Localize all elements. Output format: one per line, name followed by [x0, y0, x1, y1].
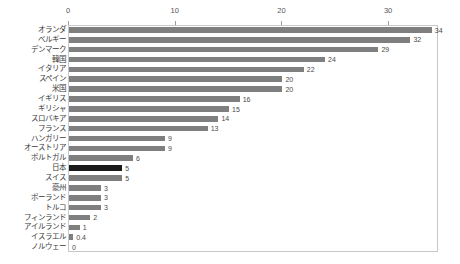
bar-row: イギリス16 — [0, 94, 460, 104]
bar-row: フランス13 — [0, 124, 460, 134]
bar — [69, 96, 240, 102]
bar — [69, 67, 304, 73]
bar-row: 米国20 — [0, 84, 460, 94]
bar — [69, 195, 101, 201]
bar-row: イタリア22 — [0, 64, 460, 74]
bar-chart: 0102030 オランダ34ベルギー32デンマーク29韓国24イタリア22スペイ… — [0, 0, 460, 264]
bar — [69, 234, 73, 240]
bar-row: ギリシャ15 — [0, 104, 460, 114]
category-label: スロバキア — [0, 114, 66, 124]
bar — [69, 57, 325, 63]
category-label: ハンガリー — [0, 134, 66, 144]
category-label: ポルトガル — [0, 153, 66, 163]
bar — [69, 146, 165, 152]
category-label: 日本 — [0, 163, 66, 173]
category-label: 米国 — [0, 84, 66, 94]
bar — [69, 86, 282, 92]
bar-row: オランダ34 — [0, 25, 460, 35]
bar-rows: オランダ34ベルギー32デンマーク29韓国24イタリア22スペイン20米国20イ… — [0, 25, 460, 252]
category-label: 豪州 — [0, 183, 66, 193]
bar-row: 韓国24 — [0, 55, 460, 65]
bar — [69, 106, 229, 112]
bar — [69, 155, 133, 161]
bar-row: アイルランド1 — [0, 222, 460, 232]
bar — [69, 205, 101, 211]
x-tick-label: 20 — [277, 6, 285, 15]
bar-row: フィンランド2 — [0, 213, 460, 223]
bar — [69, 185, 101, 191]
x-axis: 0102030 — [0, 0, 460, 26]
bar — [69, 165, 122, 171]
x-tick-label: 0 — [66, 6, 70, 15]
bar-row: ベルギー32 — [0, 35, 460, 45]
category-label: イタリア — [0, 64, 66, 74]
bar — [69, 47, 378, 53]
category-label: ノルウェー — [0, 242, 66, 252]
bar — [69, 225, 80, 231]
bar-row: 豪州3 — [0, 183, 460, 193]
category-label: フランス — [0, 124, 66, 134]
category-label: スペイン — [0, 74, 66, 84]
bar-row: ポーランド3 — [0, 193, 460, 203]
bar-value-label: 0 — [72, 243, 76, 253]
bar — [69, 175, 122, 181]
bar — [69, 76, 282, 82]
category-label: オランダ — [0, 25, 66, 35]
category-label: フィンランド — [0, 213, 66, 223]
category-label: イスラエル — [0, 232, 66, 242]
bar-row: スペイン20 — [0, 74, 460, 84]
bar-row: ノルウェー0 — [0, 242, 460, 252]
category-label: ポーランド — [0, 193, 66, 203]
bar — [69, 27, 432, 33]
category-label: アイルランド — [0, 222, 66, 232]
category-label: トルコ — [0, 203, 66, 213]
x-tick-label: 10 — [171, 6, 179, 15]
category-label: ギリシャ — [0, 104, 66, 114]
bar-row: オーストリア9 — [0, 143, 460, 153]
category-label: オーストリア — [0, 143, 66, 153]
bar — [69, 116, 218, 122]
bar-row: デンマーク29 — [0, 45, 460, 55]
category-label: ベルギー — [0, 35, 66, 45]
category-label: イギリス — [0, 94, 66, 104]
bar — [69, 37, 410, 43]
bar — [69, 215, 90, 221]
bar-row: 日本5 — [0, 163, 460, 173]
category-label: 韓国 — [0, 55, 66, 65]
bar-row: スロバキア14 — [0, 114, 460, 124]
bar-row: ポルトガル6 — [0, 153, 460, 163]
bar — [69, 136, 165, 142]
category-label: デンマーク — [0, 45, 66, 55]
bar-row: イスラエル0.4 — [0, 232, 460, 242]
bar-row: トルコ3 — [0, 203, 460, 213]
category-label: スイス — [0, 173, 66, 183]
bar-row: スイス5 — [0, 173, 460, 183]
bar-row: ハンガリー9 — [0, 134, 460, 144]
x-tick-label: 30 — [384, 6, 392, 15]
bar — [69, 126, 208, 132]
